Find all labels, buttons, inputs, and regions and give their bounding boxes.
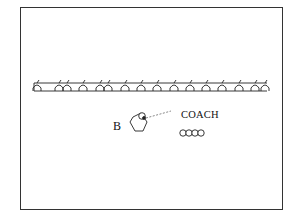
hurdle-icon <box>63 85 71 91</box>
hurdle-icon <box>55 85 63 91</box>
hurdle-icon <box>261 85 269 91</box>
hurdle-icon <box>153 85 161 91</box>
drill-diagram <box>0 0 300 220</box>
hurdle-icon <box>79 85 87 91</box>
hurdle-icon <box>170 85 178 91</box>
hurdle-icon <box>96 85 104 91</box>
hurdle-icon <box>235 85 243 91</box>
hurdle-icon <box>218 85 226 91</box>
hurdle-icon <box>104 85 112 91</box>
coach-balls <box>180 130 204 136</box>
player-marker <box>130 113 147 131</box>
hurdle-icon <box>121 85 129 91</box>
pass-line <box>146 111 171 118</box>
coach-label: COACH <box>181 110 219 121</box>
hurdle-icon <box>186 85 194 91</box>
ball-icon <box>192 130 198 136</box>
ball-icon <box>180 130 186 136</box>
hurdle-icon <box>202 85 210 91</box>
hurdle-icon <box>137 85 145 91</box>
ball-dot-icon <box>143 117 146 120</box>
ball-icon <box>198 130 204 136</box>
player-label: B <box>113 120 121 132</box>
hurdle-icon <box>251 85 259 91</box>
barrier <box>33 80 269 91</box>
ball-icon <box>186 130 192 136</box>
hurdles <box>33 80 269 91</box>
